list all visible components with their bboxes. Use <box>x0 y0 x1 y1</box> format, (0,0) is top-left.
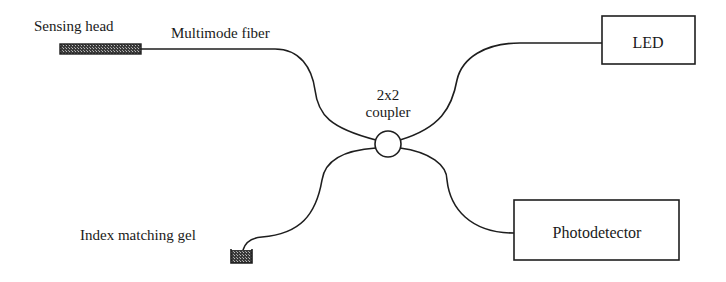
fiber-coupler-to-gel <box>243 148 376 250</box>
index-matching-gel-label: Index matching gel <box>80 227 196 243</box>
sensing-head-label: Sensing head <box>34 18 114 34</box>
photodetector-label: Photodetector <box>553 224 643 241</box>
coupler-node <box>375 131 401 157</box>
fiber-sensing-to-coupler <box>141 49 376 140</box>
index-matching-gel-container <box>231 249 252 263</box>
led-label: LED <box>632 34 663 51</box>
coupler-label-line1: 2x2 <box>377 87 400 103</box>
fiber-sensor-diagram: Sensing head Multimode fiber 2x2 coupler… <box>0 0 726 282</box>
sensing-head <box>60 44 141 54</box>
coupler-label-line2: coupler <box>366 104 411 120</box>
fiber-coupler-to-photodetector <box>400 148 514 233</box>
multimode-fiber-label: Multimode fiber <box>171 25 270 41</box>
fiber-led-to-coupler <box>400 43 602 140</box>
